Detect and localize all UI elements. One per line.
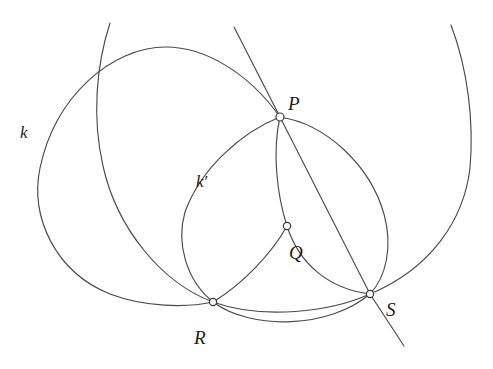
point-label-Q: Q [289,243,303,262]
curve-label-k-prime: k′ [196,173,207,190]
geometry-figure [0,0,493,369]
point-marker-Q [283,222,290,229]
point-marker-R [209,298,216,305]
point-label-S: S [386,300,396,319]
curve-arc-through-q [213,226,287,302]
curve-right-circle [280,117,388,294]
curve-label-k: k [20,124,28,141]
curve-circle-k-prime [182,117,280,302]
point-label-P: P [288,94,300,113]
curve-second-large-circle-right [213,294,370,312]
curve-line-ps [234,27,404,346]
point-label-R: R [194,328,206,347]
curve-second-large-circle [97,23,213,302]
point-marker-S [366,290,373,297]
curve-far-right-arc [370,25,471,294]
point-marker-P [276,113,284,121]
